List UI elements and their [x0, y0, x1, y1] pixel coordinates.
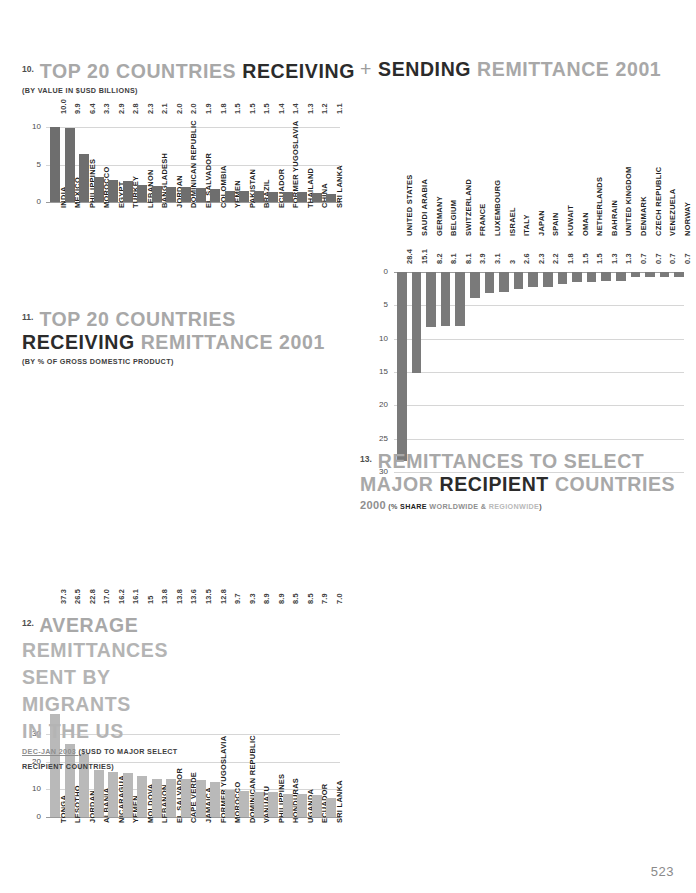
gridline-20 — [394, 405, 684, 406]
chart-13-title-countries: COUNTRIES — [549, 473, 675, 495]
x-axis — [394, 272, 684, 273]
chart-12-subtitle: DEC-JAN 2003 ($USD TO MAJOR SELECT — [22, 747, 202, 756]
chart-13-number: 13. — [360, 454, 372, 464]
bar-value-label: 2.0 — [175, 103, 184, 114]
bar-value-label: 1.5 — [248, 103, 257, 114]
category-label: CZECH REPUBLIC — [654, 167, 663, 237]
bar-value-label: 3.3 — [102, 103, 111, 114]
chart-13-subtitle-close: ) — [539, 502, 542, 511]
category-label: SAUDI ARABIA — [420, 179, 429, 236]
bar-value-label: 10.0 — [59, 99, 68, 114]
chart-10-plot: 105010.0INDIA9.9MEXICO6.4PHILIPPINES3.3M… — [22, 120, 340, 202]
bar-value-label: 7.9 — [320, 593, 329, 604]
chart-13-title-line2: MAJOR RECIPIENT COUNTRIES — [360, 473, 696, 496]
bar-value-label: 1.8 — [566, 253, 575, 264]
chart-sending-plot: 05101520253028.4UNITED STATES15.1SAUDI A… — [372, 272, 684, 472]
chart-13-subtitle-year: 2000 — [360, 499, 386, 511]
bar-value-label: 1.5 — [262, 103, 271, 114]
chart-11-number: 11. — [22, 312, 33, 322]
chart-13-subtitle-share: SHARE — [400, 502, 427, 511]
chart-10-title-dark: RECEIVING — [242, 60, 355, 82]
bar-value-label: 13.8 — [175, 589, 184, 604]
bar-value-label: 0.7 — [668, 253, 677, 264]
chart-13-title-text1: REMITTANCES TO SELECT — [378, 450, 644, 472]
chart-12-title-word-1: AVERAGE — [39, 614, 138, 636]
bar-value-label: 2.8 — [131, 103, 140, 114]
chart-12-title-word-4: MIGRANTS — [22, 691, 202, 718]
y-tick-20: 20 — [372, 401, 388, 409]
chart-12-title-word-3: SENT BY — [22, 664, 202, 691]
bar-value-label: 7.0 — [335, 593, 344, 604]
chart-10-title: 10. TOP 20 COUNTRIES RECEIVING — [22, 58, 362, 83]
table-row — [426, 272, 436, 327]
bar-value-label: 2.3 — [537, 253, 546, 264]
chart-11-title-text1: TOP 20 COUNTRIES — [39, 308, 235, 330]
category-label: OMAN — [581, 212, 590, 236]
gridline-15 — [394, 372, 684, 373]
category-label: BELGIUM — [449, 200, 458, 236]
table-row — [616, 272, 626, 281]
table-row — [601, 272, 611, 281]
chart-12-subtitle-date: DEC-JAN 2003 — [22, 747, 78, 756]
category-label: VENEZUELA — [668, 189, 677, 236]
table-row — [412, 272, 422, 373]
chart-sending-title-light: REMITTANCE 2001 — [471, 58, 661, 80]
bar-value-label: 8.9 — [277, 593, 286, 604]
category-label: ITALY — [522, 214, 531, 236]
chart-13-subtitle-regionwide: REGIONWIDE — [486, 502, 539, 511]
chart-13-subtitle-worldwide: WORLDWIDE — [427, 502, 481, 511]
bar-value-label: 13.5 — [204, 589, 213, 604]
chart-10-panel: 10. TOP 20 COUNTRIES RECEIVING (BY VALUE… — [22, 58, 362, 95]
bar-value-label: 22.8 — [88, 589, 97, 604]
bar-value-label: 1.9 — [204, 103, 213, 114]
bar-value-label: 8.2 — [435, 253, 444, 264]
bar-value-label: 1.8 — [219, 103, 228, 114]
category-label: GERMANY — [435, 196, 444, 236]
category-label: SRI LANKA — [335, 165, 344, 208]
chart-10-title-light: TOP 20 COUNTRIES — [40, 60, 242, 82]
table-row — [455, 272, 465, 326]
chart-sending-title: + SENDING REMITTANCE 2001 — [360, 58, 696, 81]
chart-13-title-line1: 13. REMITTANCES TO SELECT — [360, 448, 696, 473]
table-row — [499, 272, 509, 292]
y-tick-15: 15 — [372, 368, 388, 376]
category-label: NETHERLANDS — [595, 177, 604, 236]
table-row — [397, 272, 407, 461]
y-tick-5: 5 — [22, 161, 41, 169]
bar-value-label: 13.8 — [160, 589, 169, 604]
bar-value-label: 26.5 — [73, 589, 82, 604]
y-tick-5: 5 — [372, 301, 388, 309]
chart-12-panel: 12. AVERAGE REMITTANCES SENT BY MIGRANTS… — [22, 612, 202, 771]
category-label: FRANCE — [478, 203, 487, 236]
y-tick-10: 10 — [372, 335, 388, 343]
bar-value-label: 8.1 — [464, 253, 473, 264]
bar-value-label: 2.1 — [160, 103, 169, 114]
bar-value-label: 1.3 — [306, 103, 315, 114]
table-row — [528, 272, 538, 287]
bar-value-label: 2.0 — [189, 103, 198, 114]
bar-value-label: 1.2 — [320, 103, 329, 114]
bar-value-label: 3.9 — [478, 253, 487, 264]
chart-13-title-recipient: RECIPIENT — [439, 473, 548, 495]
chart-sending-title-dark: SENDING — [378, 58, 471, 80]
chart-10-number: 10. — [22, 64, 34, 74]
chart-11-title-line1: 11. TOP 20 COUNTRIES — [22, 306, 352, 331]
bar-value-label: 2.6 — [522, 253, 531, 264]
chart-13-title-major: MAJOR — [360, 473, 439, 495]
bar-value-label: 8.5 — [306, 593, 315, 604]
bar-value-label: 2.2 — [551, 253, 560, 264]
chart-13-panel: 13. REMITTANCES TO SELECT MAJOR RECIPIEN… — [360, 448, 696, 511]
bar-value-label: 17.0 — [102, 589, 111, 604]
bar-value-label: 1.5 — [581, 253, 590, 264]
table-row — [558, 272, 568, 284]
plus-icon: + — [360, 58, 372, 80]
gridline-10 — [394, 339, 684, 340]
chart-13-subtitle: 2000 (% SHARE WORLDWIDE & REGIONWIDE) — [360, 499, 696, 511]
bar-value-label: 16.1 — [131, 589, 140, 604]
gridline-25 — [394, 439, 684, 440]
bar-value-label: 9.7 — [233, 593, 242, 604]
y-tick-25: 25 — [372, 435, 388, 443]
chart-11-title-dark: RECEIVING — [22, 331, 135, 353]
chart-12-subtitle-rest: ($USD TO MAJOR SELECT — [78, 747, 177, 756]
category-label: LUXEMBOURG — [493, 180, 502, 236]
